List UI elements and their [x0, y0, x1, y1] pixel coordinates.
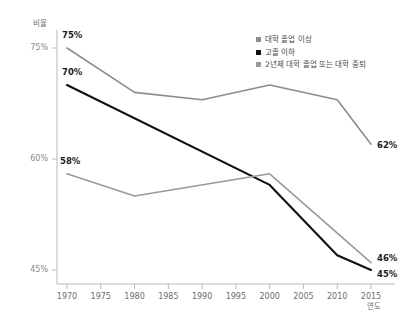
- label-start-college: 75%: [62, 30, 82, 40]
- line-chart: 비율 연도 75%60%45% 197019751980198519901995…: [0, 0, 410, 327]
- x-tick-label: 1995: [219, 292, 253, 301]
- label-end-highschool: 45%: [377, 269, 397, 279]
- x-tick-label: 2010: [320, 292, 354, 301]
- x-tick-label: 1975: [84, 292, 118, 301]
- legend-label: 대학 졸업 이상: [265, 36, 312, 44]
- label-start-some-college: 58%: [60, 156, 80, 166]
- label-start-highschool: 70%: [62, 67, 82, 77]
- series-line-1: [67, 85, 371, 270]
- x-axis-title: 연도: [367, 300, 381, 311]
- series-line-2: [67, 174, 371, 263]
- x-tick-label: 2005: [286, 292, 320, 301]
- y-axis-title: 비율: [33, 17, 47, 28]
- legend-item-1[interactable]: 고졸 이하: [256, 49, 366, 57]
- legend-item-0[interactable]: 대학 졸업 이상: [256, 36, 366, 44]
- x-tick-label: 1970: [50, 292, 84, 301]
- label-end-some-college: 46%: [377, 253, 397, 263]
- legend-item-2[interactable]: 2년제 대학 졸업 또는 대학 중퇴: [256, 61, 366, 69]
- legend-label: 2년제 대학 졸업 또는 대학 중퇴: [265, 61, 366, 69]
- x-tick-label: 1990: [185, 292, 219, 301]
- y-tick-label: 75%: [18, 43, 48, 52]
- y-tick-label: 45%: [18, 265, 48, 274]
- y-tick-label: 60%: [18, 154, 48, 163]
- legend-swatch-icon: [256, 50, 261, 55]
- x-tick-label: 1985: [151, 292, 185, 301]
- legend-swatch-icon: [256, 37, 261, 42]
- legend-label: 고졸 이하: [265, 49, 295, 57]
- x-tick-label: 2015: [354, 292, 388, 301]
- x-tick-label: 1980: [118, 292, 152, 301]
- label-end-college: 62%: [377, 140, 397, 150]
- chart-legend: 대학 졸업 이상고졸 이하2년제 대학 졸업 또는 대학 중퇴: [256, 36, 366, 69]
- x-tick-label: 2000: [253, 292, 287, 301]
- legend-swatch-icon: [256, 62, 261, 67]
